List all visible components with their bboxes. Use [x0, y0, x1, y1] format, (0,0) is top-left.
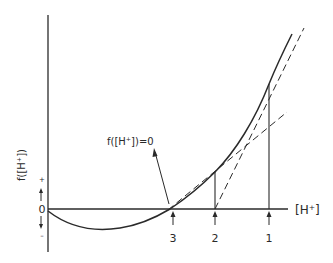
y-negative-sign: – [40, 232, 44, 240]
function-curve [48, 34, 292, 229]
root-pointer-line [155, 152, 169, 204]
y-positive-sign: + [39, 176, 45, 184]
y-zero-label: 0 [39, 203, 46, 216]
marker-1-label: 1 [266, 232, 273, 245]
y-axis-label: f([H⁺]) [16, 149, 27, 181]
x-axis-label: [H⁺] [295, 203, 320, 217]
marker-3-label: 3 [170, 232, 177, 245]
y-down-arrow [39, 216, 43, 229]
root-pointer-arrowhead [153, 148, 158, 157]
marker-3-arrow [171, 211, 176, 225]
marker-2-arrow [213, 211, 218, 225]
root-annotation: f([H⁺])=0 [107, 136, 154, 147]
newton-method-diagram: 3 2 1 [H⁺] f([H⁺])=0 0 + – f([H⁺]) [0, 0, 333, 263]
tangent-at-1 [215, 28, 304, 209]
marker-1-arrow [267, 211, 272, 225]
y-up-arrow [39, 188, 43, 201]
marker-2-label: 2 [212, 232, 219, 245]
